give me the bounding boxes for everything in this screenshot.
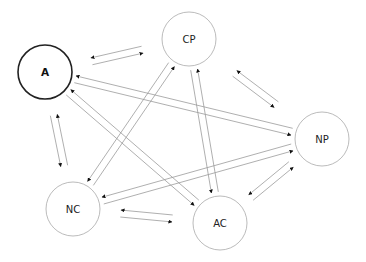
edge-a-to-np (74, 83, 291, 135)
edge-nc-to-cp (93, 67, 174, 186)
edge-np-to-a (76, 76, 293, 128)
edge-nc-to-np (104, 151, 293, 204)
node-label-a: A (41, 66, 49, 78)
edge-ac-to-a (71, 90, 199, 200)
edge-np-to-nc (102, 144, 291, 197)
edge-nc-to-ac (120, 217, 172, 222)
edge-cp-to-a (91, 46, 142, 58)
node-label-cp: CP (182, 34, 195, 45)
edge-cp-to-np (233, 76, 275, 107)
edge-ac-to-nc (121, 210, 173, 215)
edge-np-to-ac (249, 162, 289, 195)
node-label-np: NP (315, 134, 329, 145)
node-label-ac: AC (213, 218, 227, 229)
edge-np-to-cp (237, 71, 279, 102)
edge-a-to-cp (92, 53, 143, 65)
edge-ac-to-np (253, 167, 293, 200)
node-label-nc: NC (66, 204, 80, 215)
